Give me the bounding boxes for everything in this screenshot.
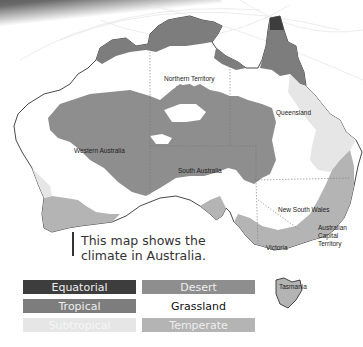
label-victoria: Victoria [266,244,288,251]
label-western-australia: Western Australia [74,147,125,154]
legend-subtropical: Subtropical [23,318,136,332]
legend-equatorial: Equatorial [23,280,136,294]
label-northern-territory: Northern Territory [164,75,214,82]
label-act-line2: Capital [318,232,347,240]
legend-grassland: Grassland [142,299,255,313]
label-south-australia: South Australia [178,167,222,174]
label-act-line1: Australian [318,224,347,232]
equatorial-region [270,16,284,30]
map-caption: This map shows the climate in Australia. [81,233,231,263]
label-tasmania: Tasmania [279,283,307,290]
caption-pointer-line [72,232,74,256]
label-act: Australian Capital Territory [318,224,347,248]
legend-desert: Desert [142,280,255,294]
legend-tropical: Tropical [23,299,136,313]
legend-temperate: Temperate [142,318,255,332]
label-new-south-wales: New South Wales [278,206,329,213]
label-act-line3: Territory [318,240,347,248]
label-queensland: Queensland [276,109,311,116]
climate-legend: Equatorial Desert Tropical Grassland Sub… [23,280,255,332]
